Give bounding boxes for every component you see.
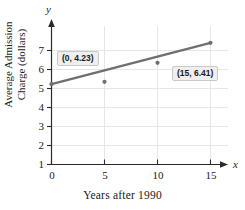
y-tick-label-7: 7 — [30, 45, 44, 56]
grid-lines — [51, 26, 228, 165]
x-tick-label-5: 5 — [97, 170, 113, 181]
x-axis-variable-label: x — [233, 159, 238, 170]
data-point — [102, 80, 106, 84]
data-point — [208, 41, 212, 45]
y-tick-label-4: 4 — [30, 102, 44, 113]
data-point — [49, 82, 53, 86]
y-axis-variable-label: y — [46, 4, 51, 15]
x-axis — [51, 160, 228, 168]
y-tick-label-3: 3 — [30, 121, 44, 132]
y-axis-title-line-1: Average Admission — [2, 0, 15, 130]
annotation-point-15: (15, 6.41) — [172, 66, 218, 81]
y-axis — [47, 19, 55, 165]
y-tick-label-6: 6 — [30, 64, 44, 75]
y-axis-ticks — [47, 51, 52, 165]
x-axis-ticks — [52, 160, 211, 165]
y-axis-title-line-2: Charge (dollars) — [14, 0, 27, 130]
y-tick-label-2: 2 — [30, 140, 44, 151]
data-point — [155, 61, 159, 65]
annotation-point-0: (0, 4.23) — [57, 51, 99, 66]
y-tick-label-1: 1 — [30, 159, 44, 170]
y-axis-title: Average Admission Charge (dollars) — [2, 0, 27, 130]
chart-figure: 1 2 3 4 5 6 7 0 5 10 15 y x Years after … — [0, 0, 245, 210]
x-axis-title: Years after 1990 — [0, 189, 245, 201]
y-tick-label-5: 5 — [30, 83, 44, 94]
x-tick-label-10: 10 — [150, 170, 166, 181]
y-axis-arrow-icon — [48, 19, 55, 27]
x-axis-arrow-icon — [220, 161, 228, 167]
x-tick-label-0: 0 — [44, 170, 60, 181]
x-tick-label-15: 15 — [203, 170, 219, 181]
